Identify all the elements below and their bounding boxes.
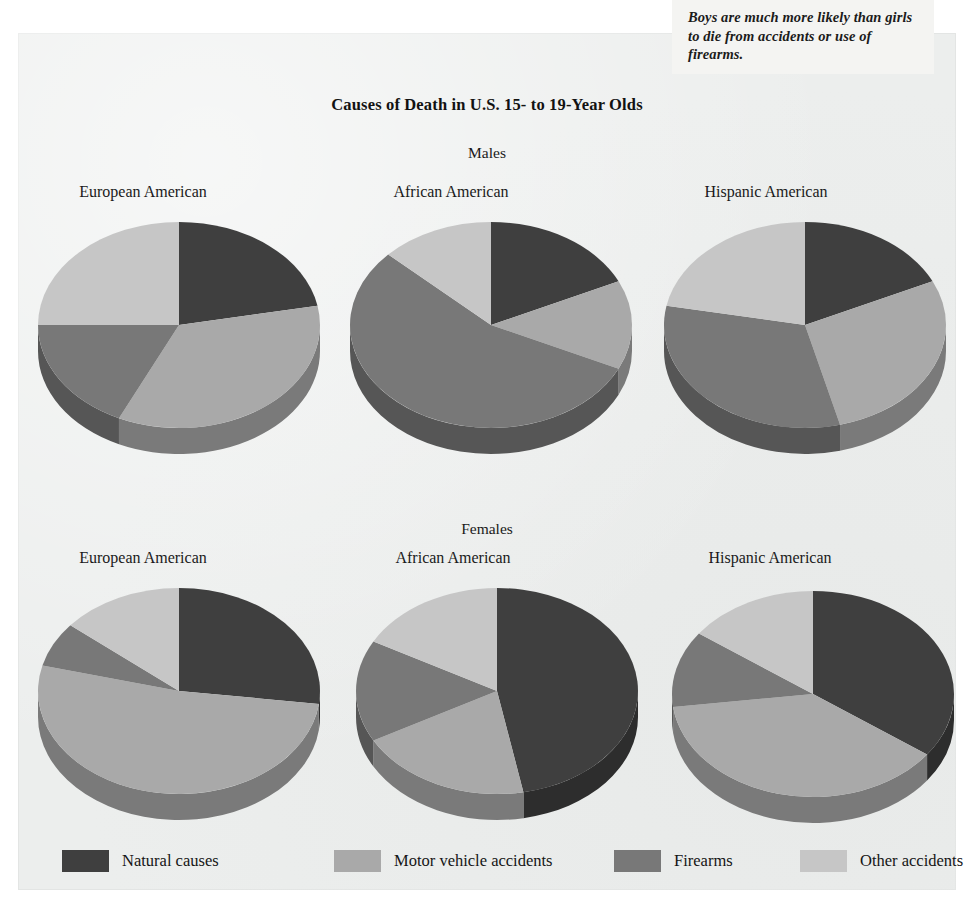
pie-chart-males-hispanic[interactable] [658, 216, 952, 460]
legend-label-other-accidents: Other accidents [860, 851, 963, 871]
pie-top-faces [38, 222, 320, 428]
pie-svg [666, 585, 960, 829]
pie-label-males-african: African American [311, 183, 591, 201]
pie-top-faces [664, 222, 946, 428]
pie-chart-females-hispanic[interactable] [666, 585, 960, 829]
pie-top-faces [38, 588, 320, 794]
figure-page: Causes of Death in U.S. 15- to 19-Year O… [0, 0, 974, 905]
legend-label-natural-causes: Natural causes [122, 851, 219, 871]
pie-top-faces [350, 222, 632, 428]
legend-swatch-other-accidents [800, 850, 847, 872]
legend-label-firearms: Firearms [674, 851, 733, 871]
pie-label-females-hispanic: Hispanic American [630, 549, 910, 567]
pie-label-females-african: African American [313, 549, 593, 567]
group-title-females: Females [18, 520, 956, 538]
pie-top-faces [356, 588, 638, 794]
pie-svg [350, 582, 644, 826]
legend-label-motor-vehicle-accidents: Motor vehicle accidents [394, 851, 553, 871]
pie-chart-females-european[interactable] [32, 582, 326, 826]
pie-slice[interactable] [179, 588, 320, 704]
legend-swatch-natural-causes [62, 850, 109, 872]
page-title: Causes of Death in U.S. 15- to 19-Year O… [18, 95, 956, 115]
pie-label-males-hispanic: Hispanic American [626, 183, 906, 201]
legend-item-motor-vehicle-accidents[interactable]: Motor vehicle accidents [334, 850, 614, 872]
pie-chart-males-african[interactable] [344, 216, 638, 460]
pie-svg [344, 216, 638, 460]
legend-swatch-motor-vehicle-accidents [334, 850, 381, 872]
pie-svg [32, 216, 326, 460]
legend-item-firearms[interactable]: Firearms [614, 850, 800, 872]
pie-top-faces [672, 591, 954, 797]
pie-chart-males-european[interactable] [32, 216, 326, 460]
group-title-males: Males [18, 144, 956, 162]
legend: Natural causes Motor vehicle accidents F… [18, 850, 956, 872]
figure-panel: Causes of Death in U.S. 15- to 19-Year O… [18, 33, 956, 890]
pie-label-males-european: European American [3, 183, 283, 201]
pie-label-females-european: European American [3, 549, 283, 567]
pie-slice[interactable] [38, 222, 179, 325]
pie-svg [658, 216, 952, 460]
legend-swatch-firearms [614, 850, 661, 872]
legend-item-natural-causes[interactable]: Natural causes [44, 850, 334, 872]
pie-chart-females-african[interactable] [350, 582, 644, 826]
annotation-callout: Boys are much more likely than girls to … [672, 0, 934, 74]
pie-svg [32, 582, 326, 826]
legend-item-other-accidents[interactable]: Other accidents [800, 850, 963, 872]
